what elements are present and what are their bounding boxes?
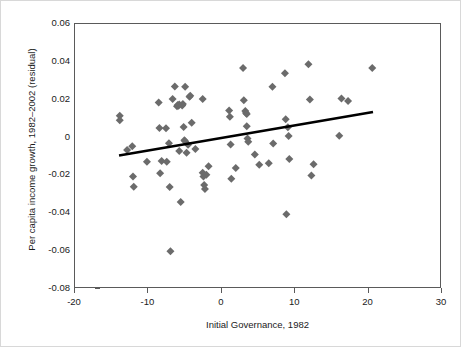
x-tick-label: 0 (201, 297, 241, 307)
data-point (255, 161, 263, 169)
data-point (156, 169, 164, 177)
data-point (243, 122, 251, 130)
x-tick-label: -20 (54, 297, 94, 307)
data-point (155, 99, 163, 107)
data-point (175, 147, 183, 155)
data-point (116, 116, 124, 124)
data-point (180, 123, 188, 131)
data-point (129, 172, 137, 180)
plot-area (74, 23, 441, 288)
data-point (163, 158, 171, 166)
data-point (205, 162, 213, 170)
data-point (155, 124, 163, 132)
data-point (191, 145, 199, 153)
data-point (281, 69, 289, 77)
x-tick-label: 10 (274, 297, 314, 307)
x-tick-mark (294, 288, 295, 293)
data-point (232, 164, 240, 172)
data-point (177, 198, 185, 206)
data-point (335, 132, 343, 140)
data-point (225, 107, 233, 115)
data-point (285, 132, 293, 140)
data-point (183, 149, 191, 157)
data-point (307, 172, 315, 180)
data-point (199, 95, 207, 103)
data-point (181, 83, 189, 91)
data-point (226, 113, 234, 121)
data-point (143, 158, 151, 166)
data-point (227, 175, 235, 183)
scatter-plot-svg (75, 24, 442, 289)
data-point (240, 96, 248, 104)
x-tick-label: -10 (127, 297, 167, 307)
data-point (188, 119, 196, 127)
data-point (306, 96, 314, 104)
data-point (130, 183, 138, 191)
trendline (119, 112, 373, 156)
data-point (227, 140, 235, 148)
data-point (239, 64, 247, 72)
x-tick-mark (147, 288, 148, 293)
data-point (171, 82, 179, 90)
data-point (304, 60, 312, 68)
y-tick-label: 0.06 (30, 18, 70, 28)
data-point (282, 210, 290, 218)
data-point (368, 64, 376, 72)
x-tick-label: 20 (348, 297, 388, 307)
data-point (166, 247, 174, 255)
data-point (268, 83, 276, 91)
x-tick-label: 30 (421, 297, 461, 307)
data-point (285, 155, 293, 163)
data-point (166, 183, 174, 191)
x-tick-mark (441, 288, 442, 293)
data-point (169, 95, 177, 103)
y-tick-label: -0.08 (30, 283, 70, 293)
x-tick-mark (74, 288, 75, 293)
data-point (269, 139, 277, 147)
x-tick-mark (221, 288, 222, 293)
x-axis-title: Initial Governance, 1982 (74, 319, 441, 330)
data-point (265, 159, 273, 167)
y-axis-title: Per capita income growth, 1982–2002 (res… (26, 34, 37, 266)
x-axis-ticks: -20-100102030 (74, 288, 441, 314)
data-point (310, 160, 318, 168)
chart-figure: 0.060.040.020-0.02-0.04-0.06-0.08 -20-10… (0, 0, 461, 347)
data-point (282, 115, 290, 123)
data-point (251, 150, 259, 158)
x-tick-mark (368, 288, 369, 293)
data-point (162, 124, 170, 132)
